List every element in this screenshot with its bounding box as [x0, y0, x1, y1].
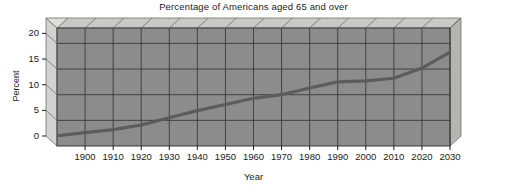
y-axis-tick-label: 20	[13, 28, 39, 38]
chart-container: Percentage of Americans aged 65 and over…	[0, 0, 507, 191]
x-axis-tick-marks	[85, 146, 450, 150]
chart-plot-area	[0, 0, 507, 191]
y-axis-tick-label: 15	[13, 54, 39, 64]
plot-3d-left-face	[46, 18, 57, 146]
plot-3d-right-face	[450, 18, 461, 146]
y-axis-tick-label: 10	[13, 80, 39, 90]
y-axis-tick-label: 5	[13, 105, 39, 115]
y-axis-tick-marks	[42, 33, 46, 136]
y-axis-tick-label: 0	[13, 131, 39, 141]
x-axis-tick-label: 2030	[433, 152, 467, 162]
